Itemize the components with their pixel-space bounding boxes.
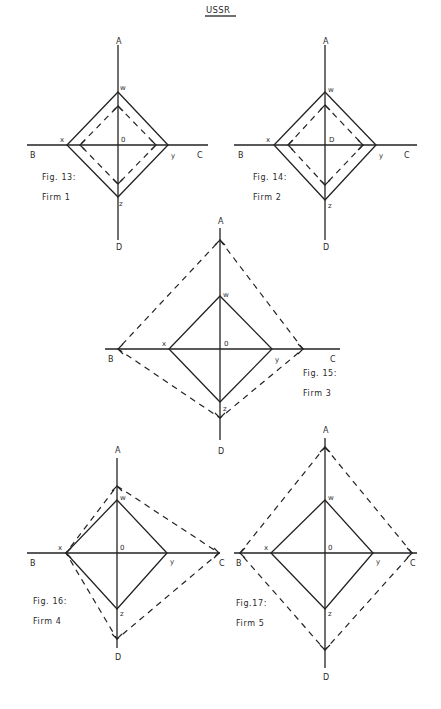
- label-x: x: [58, 544, 62, 552]
- label-b: B: [238, 151, 244, 160]
- figure-caption: Fig.17:: [236, 599, 267, 608]
- firm-label: Firm 3: [303, 389, 331, 398]
- label-w: w: [328, 494, 334, 502]
- label-c: C: [197, 151, 203, 160]
- label-a: A: [218, 217, 224, 226]
- label-x: x: [60, 136, 64, 144]
- diagram-page: USSR ABCDwxyz0Fig. 13:Firm 1ABCDwxyzDFig…: [0, 0, 441, 709]
- label-d: D: [116, 243, 122, 252]
- label-a: A: [115, 446, 121, 455]
- firm-label: Firm 1: [42, 193, 70, 202]
- label-d: D: [323, 243, 329, 252]
- label-d: D: [115, 653, 121, 662]
- figure-fig17: ABCDwxyz0Fig.17:Firm 5: [234, 426, 417, 682]
- label-o: 0: [121, 136, 125, 144]
- figures: ABCDwxyz0Fig. 13:Firm 1ABCDwxyzDFig. 14:…: [27, 37, 417, 682]
- label-x: x: [264, 544, 268, 552]
- label-y: y: [379, 152, 383, 160]
- label-y: y: [275, 356, 279, 364]
- figure-fig14: ABCDwxyzDFig. 14:Firm 2: [234, 37, 417, 252]
- label-o: 0: [120, 544, 124, 552]
- label-z: z: [328, 610, 332, 618]
- page-title-group: USSR: [205, 5, 236, 16]
- figure-caption: Fig. 15:: [303, 369, 337, 378]
- label-y: y: [170, 558, 174, 566]
- label-x: x: [266, 136, 270, 144]
- label-o: D: [329, 136, 334, 144]
- label-w: w: [328, 86, 334, 94]
- figure-caption: Fig. 14:: [253, 173, 287, 182]
- label-b: B: [108, 355, 114, 364]
- label-b: B: [30, 559, 36, 568]
- label-b: B: [236, 559, 242, 568]
- label-w: w: [120, 494, 126, 502]
- label-c: C: [404, 151, 410, 160]
- label-w: w: [120, 84, 126, 92]
- label-a: A: [116, 37, 122, 46]
- label-x: x: [162, 340, 166, 348]
- label-o: 0: [224, 340, 228, 348]
- label-w: w: [223, 291, 229, 299]
- figure-caption: Fig. 16:: [33, 597, 67, 606]
- firm-label: Firm 2: [253, 193, 281, 202]
- label-z: z: [119, 200, 123, 208]
- label-y: y: [376, 558, 380, 566]
- label-o: 0: [328, 544, 332, 552]
- solid-diamond-wxyz: [271, 500, 373, 609]
- label-z: z: [120, 610, 124, 618]
- firm-label: Firm 5: [236, 619, 264, 628]
- label-z: z: [223, 405, 227, 413]
- label-y: y: [171, 152, 175, 160]
- label-d: D: [218, 447, 224, 456]
- label-d: D: [323, 673, 329, 682]
- label-a: A: [323, 426, 329, 435]
- label-z: z: [328, 202, 332, 210]
- label-c: C: [330, 355, 336, 364]
- label-a: A: [323, 37, 329, 46]
- label-b: B: [30, 151, 36, 160]
- figure-caption: Fig. 13:: [42, 173, 76, 182]
- figure-fig13: ABCDwxyz0Fig. 13:Firm 1: [27, 37, 208, 252]
- label-c: C: [410, 559, 416, 568]
- figure-fig15: ABCDwxyz0Fig. 15:Firm 3: [105, 217, 340, 456]
- label-c: C: [219, 559, 225, 568]
- dashed-diamond: [66, 486, 219, 639]
- page-title: USSR: [206, 5, 230, 15]
- firm-label: Firm 4: [33, 617, 61, 626]
- figures-canvas: USSR ABCDwxyz0Fig. 13:Firm 1ABCDwxyzDFig…: [0, 0, 441, 709]
- figure-fig16: ABCDwxyz0Fig. 16:Firm 4: [27, 446, 225, 662]
